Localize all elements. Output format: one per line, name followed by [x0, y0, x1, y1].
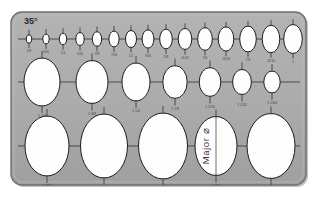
ellipse-size-label: 1 1/64 — [267, 101, 277, 105]
ellipse-hole[interactable] — [198, 28, 213, 51]
ellipse-hole[interactable] — [163, 66, 187, 99]
ellipse-hole[interactable] — [26, 35, 31, 43]
ellipse-hole[interactable] — [218, 27, 234, 51]
ellipse-size-label: 1/2 — [129, 54, 134, 58]
ellipse-hole[interactable] — [25, 116, 69, 176]
ellipse-size-label: 1/8 — [27, 49, 32, 53]
ellipse-hole[interactable] — [284, 24, 303, 53]
ellipse-hole[interactable] — [142, 30, 154, 48]
ellipse-size-label: 5/8 — [164, 55, 169, 59]
ellipse-hole[interactable] — [122, 63, 150, 101]
template-scene: 1/83/161/45/163/87/161/29/165/811/163/41… — [0, 0, 317, 197]
ellipse-size-label: 5/16 — [77, 52, 83, 56]
major-diameter-label: Major ⌀ — [200, 128, 211, 165]
ellipse-size-label: 9/16 — [145, 54, 151, 58]
ellipse-size-label: 11/16 — [181, 56, 189, 60]
ellipse-size-label: 3/8 — [95, 52, 100, 56]
ellipse-hole[interactable] — [199, 68, 221, 97]
ellipse-hole[interactable] — [178, 28, 192, 49]
ellipse-hole[interactable] — [240, 26, 257, 52]
ellipse-hole[interactable] — [233, 69, 252, 94]
angle-label: 35° — [24, 16, 38, 26]
ellipse-size-label: 1 1/4 — [132, 109, 140, 113]
ellipse-hole[interactable] — [43, 34, 49, 44]
ellipse-hole[interactable] — [160, 29, 173, 49]
ellipse-hole[interactable] — [59, 33, 66, 45]
ellipse-hole[interactable] — [247, 114, 295, 179]
ellipse-hole[interactable] — [264, 71, 280, 93]
ellipse-hole[interactable] — [76, 61, 108, 104]
ellipse-hole[interactable] — [139, 113, 188, 179]
ellipse-hole[interactable] — [24, 58, 60, 106]
ellipse-size-label: 7/8 — [246, 58, 251, 62]
ellipse-size-label: 1 — [292, 60, 294, 64]
ellipse-size-label: 3/4 — [203, 56, 208, 60]
ellipse-hole[interactable] — [92, 32, 101, 47]
ellipse-hole[interactable] — [109, 31, 119, 47]
ellipse-size-label: 3/16 — [43, 50, 49, 54]
ellipse-size-label: 1/4 — [61, 51, 66, 55]
ellipse-size-label: 1 1/8 — [171, 107, 179, 111]
ellipse-size-label: 15/16 — [267, 59, 275, 63]
ellipse-size-label: 1 3/8 — [88, 112, 96, 116]
ellipse-size-label: 7/16 — [111, 53, 117, 57]
ellipse-hole[interactable] — [76, 32, 84, 45]
ellipse-hole[interactable] — [262, 25, 280, 53]
ellipse-hole[interactable] — [126, 30, 137, 47]
ellipse-size-label: 1 1/16 — [205, 105, 215, 109]
ellipse-size-label: 1 1/32 — [237, 103, 247, 107]
ellipse-hole[interactable] — [81, 114, 128, 178]
ellipse-template-svg: 1/83/161/45/163/87/161/29/165/811/163/41… — [0, 0, 317, 197]
ellipse-size-label: 13/16 — [222, 57, 230, 61]
